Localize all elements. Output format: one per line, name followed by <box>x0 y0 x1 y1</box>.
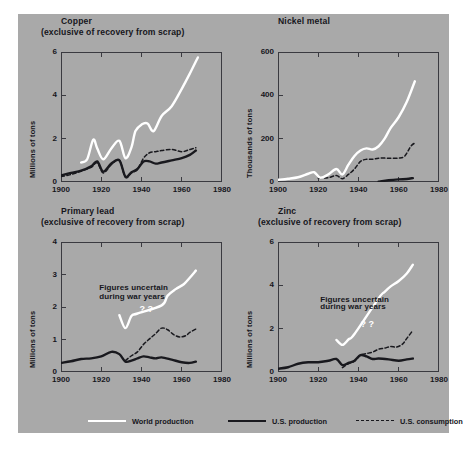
legend-label-world-production: World production <box>132 417 193 426</box>
annotation-primary-lead-1: during war years <box>99 292 165 301</box>
series-nickel-solid-black <box>379 178 413 181</box>
annotation-zinc-1: during war years <box>320 302 386 311</box>
series-copper-solid-white <box>81 57 198 162</box>
series-nickel-solid-white <box>278 81 415 180</box>
chart-panel-primary-lead: Primary lead(exclusive of recovery from … <box>18 204 235 394</box>
series-zinc-solid-black <box>278 355 413 369</box>
figure-panel: Copper(exclusive of recovery from scrap)… <box>18 14 449 433</box>
figure-legend: World production U.S. production U.S. co… <box>18 414 449 433</box>
legend-swatch-us-consumption <box>356 420 394 421</box>
plot-lines-nickel <box>235 14 452 204</box>
series-primary-lead-solid-black <box>61 352 196 363</box>
legend-swatch-us-production <box>228 420 266 422</box>
annotation-zinc-2: ? ? <box>361 319 375 329</box>
legend-label-us-production: U.S. production <box>272 417 327 426</box>
plot-lines-copper <box>18 14 235 204</box>
annotation-primary-lead-0: Figures uncertain <box>99 283 168 292</box>
chart-panel-nickel: Nickel metalThousands of tons02004006001… <box>235 14 452 204</box>
chart-panel-copper: Copper(exclusive of recovery from scrap)… <box>18 14 235 204</box>
legend-label-us-consumption: U.S. consumption <box>400 417 463 426</box>
chart-panel-zinc: Zinc(exclusive of recovery from scrap)Mi… <box>235 204 452 394</box>
series-primary-lead-dashed-black <box>125 328 195 361</box>
annotation-primary-lead-2: ? ? <box>139 304 153 314</box>
legend-swatch-world-production <box>88 420 126 422</box>
